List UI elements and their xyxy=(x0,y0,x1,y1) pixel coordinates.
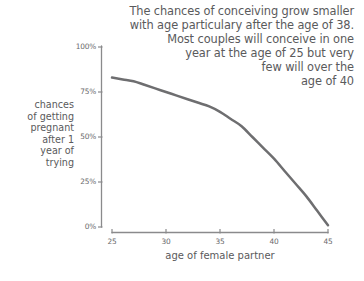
y-tick-label-100: 100% xyxy=(62,42,96,51)
x-tick-label-35: 35 xyxy=(208,237,232,246)
y-tick-label-50: 50% xyxy=(62,132,96,141)
x-tick-label-40: 40 xyxy=(262,237,286,246)
x-axis-title: age of female partner xyxy=(112,250,328,261)
x-tick-label-25: 25 xyxy=(100,237,124,246)
chart-title: The chances of conceiving grow smaller w… xyxy=(96,4,354,89)
chart-figure: The chances of conceiving grow smaller w… xyxy=(0,0,364,281)
y-tick-label-0: 0% xyxy=(62,222,96,231)
y-tick-label-75: 75% xyxy=(62,87,96,96)
data-series-line xyxy=(112,78,328,226)
x-tick-label-30: 30 xyxy=(154,237,178,246)
x-tick-label-45: 45 xyxy=(316,237,340,246)
y-tick-label-25: 25% xyxy=(62,177,96,186)
